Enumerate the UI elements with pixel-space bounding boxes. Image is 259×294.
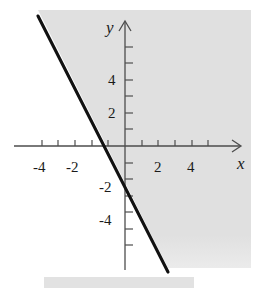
y-tick-label-neg2: -2 [99,180,112,195]
x-tick-label-2: 2 [154,160,162,175]
x-tick-label-4: 4 [187,160,195,175]
coordinate-plane [0,0,259,294]
x-axis-label: x [237,155,245,172]
y-tick-label-4: 4 [108,73,116,88]
y-axis-label: y [106,19,114,36]
x-tick-label-neg2: -2 [66,160,79,175]
graph-figure: y x -4 -2 2 4 4 2 -2 -4 [0,0,259,294]
shaded-half-plane [0,0,259,294]
caption-placeholder-bar [44,277,194,288]
y-tick-label-2: 2 [108,106,116,121]
x-tick-label-neg4: -4 [33,160,46,175]
y-tick-label-neg4: -4 [99,213,112,228]
